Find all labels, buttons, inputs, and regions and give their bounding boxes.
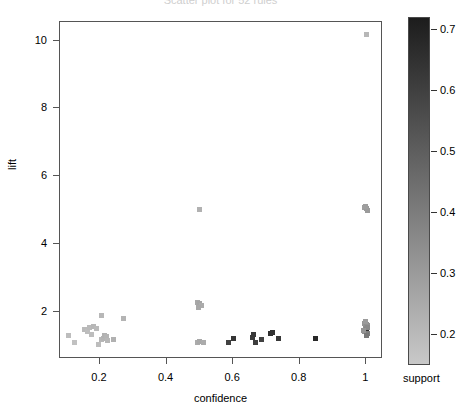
data-point[interactable]: [105, 338, 110, 343]
colorbar-tick-mark: [431, 90, 437, 91]
data-point[interactable]: [99, 313, 104, 318]
x-axis-label: confidence: [0, 392, 441, 404]
data-point[interactable]: [89, 332, 94, 337]
colorbar-tick-label: 0.5: [440, 146, 455, 157]
x-tick-mark: [166, 358, 167, 364]
colorbar-label: support: [403, 372, 440, 384]
x-tick-label: 0.8: [274, 372, 324, 383]
colorbar-tick-mark: [431, 273, 437, 274]
y-tick-label: 2: [0, 306, 47, 317]
data-point[interactable]: [253, 340, 258, 345]
data-point[interactable]: [66, 333, 71, 338]
data-point[interactable]: [201, 340, 206, 345]
data-point[interactable]: [196, 305, 201, 310]
y-tick-label: 10: [0, 35, 47, 46]
colorbar-tick-mark: [431, 151, 437, 152]
x-tick-label: 0.4: [141, 372, 191, 383]
data-point[interactable]: [96, 342, 101, 347]
x-tick-label: 1: [340, 372, 390, 383]
data-point[interactable]: [364, 32, 369, 37]
colorbar-tick-label: 0.6: [440, 85, 455, 96]
x-tick-mark: [365, 358, 366, 364]
plot-area: [59, 21, 382, 358]
data-point[interactable]: [259, 337, 264, 342]
colorbar-tick-label: 0.2: [440, 329, 455, 340]
x-tick-mark: [299, 358, 300, 364]
data-point[interactable]: [231, 336, 236, 341]
data-point[interactable]: [313, 336, 318, 341]
y-tick-label: 6: [0, 170, 47, 181]
chart-title: Scatter plot for 52 rules: [0, 0, 441, 6]
support-colorbar: [408, 17, 430, 365]
x-tick-label: 0.2: [74, 372, 124, 383]
data-point[interactable]: [111, 337, 116, 342]
colorbar-tick-label: 0.3: [440, 268, 455, 279]
y-tick-label: 8: [0, 102, 47, 113]
data-point[interactable]: [121, 316, 126, 321]
data-point[interactable]: [276, 336, 281, 341]
y-axis-label: lift: [6, 159, 18, 170]
data-point[interactable]: [363, 319, 368, 324]
data-point[interactable]: [94, 326, 99, 331]
colorbar-tick-label: 0.7: [440, 24, 455, 35]
data-point[interactable]: [72, 340, 77, 345]
colorbar-tick-mark: [431, 212, 437, 213]
colorbar-tick-mark: [431, 334, 437, 335]
x-tick-label: 0.6: [207, 372, 257, 383]
data-point[interactable]: [226, 340, 231, 345]
data-point[interactable]: [197, 207, 202, 212]
data-point[interactable]: [270, 330, 275, 335]
y-tick-label: 4: [0, 238, 47, 249]
x-tick-mark: [232, 358, 233, 364]
data-point[interactable]: [251, 332, 256, 337]
data-point[interactable]: [363, 204, 368, 209]
scatter-plot-figure: Scatter plot for 52 rules lift confidenc…: [0, 0, 476, 414]
colorbar-tick-mark: [431, 29, 437, 30]
data-point[interactable]: [364, 333, 369, 338]
colorbar-tick-label: 0.4: [440, 207, 455, 218]
x-tick-mark: [99, 358, 100, 364]
